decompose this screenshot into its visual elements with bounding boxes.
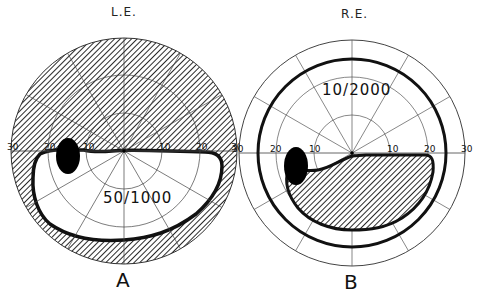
panel-a-chart: 30 20 10 10 20 30 bbox=[7, 38, 243, 264]
panel-a-tick-left-30: 30 bbox=[7, 142, 19, 152]
visual-field-figure: 30 20 10 10 20 30 bbox=[0, 0, 479, 297]
panel-a-blind-spot bbox=[56, 138, 80, 174]
panel-b-acuity: 10/2000 bbox=[322, 81, 391, 99]
panel-a-tick-left-10: 10 bbox=[83, 142, 95, 152]
panel-b-chart: 30 20 10 10 20 30 bbox=[232, 40, 473, 266]
panel-a-label: A bbox=[116, 268, 130, 292]
panel-a-tick-right-20: 20 bbox=[196, 142, 208, 152]
panel-a-eye-label: L.E. bbox=[111, 5, 137, 19]
panel-b-blind-spot bbox=[284, 147, 308, 185]
panel-b-eye-label: R.E. bbox=[341, 7, 368, 21]
panel-b-tick-left-10: 10 bbox=[309, 144, 321, 154]
panel-b-tick-left-20: 20 bbox=[270, 144, 282, 154]
panel-b-tick-right-30: 30 bbox=[461, 144, 473, 154]
panel-a-fixation-point bbox=[122, 149, 126, 153]
panel-a-tick-right-10: 10 bbox=[159, 142, 171, 152]
panel-b-label: B bbox=[344, 270, 358, 294]
panel-a-tick-left-20: 20 bbox=[44, 142, 56, 152]
panel-b-tick-right-10: 10 bbox=[387, 144, 399, 154]
panel-b-fixation-point bbox=[350, 151, 354, 155]
panel-b-tick-right-20: 20 bbox=[424, 144, 436, 154]
panel-b-tick-left-30: 30 bbox=[232, 144, 244, 154]
panel-a-acuity: 50/1000 bbox=[103, 189, 172, 207]
